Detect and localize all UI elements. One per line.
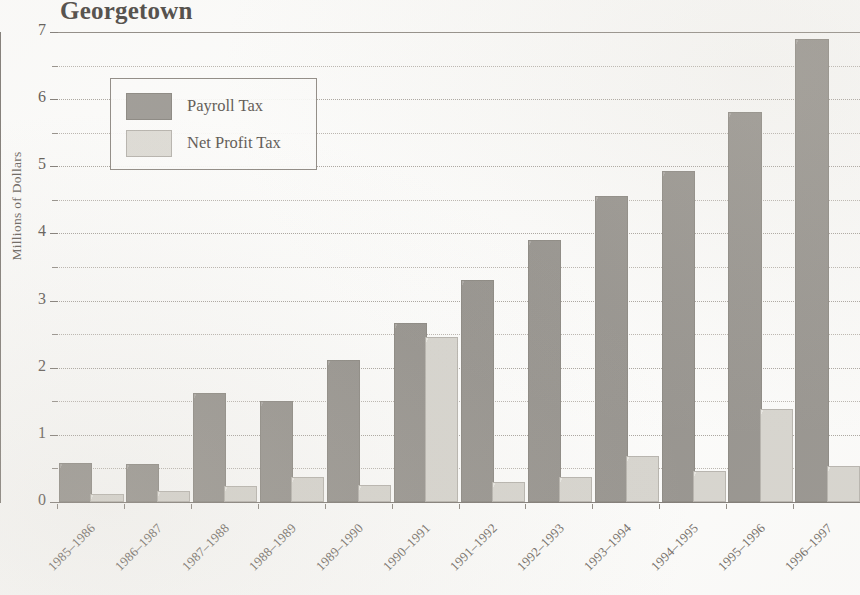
bar-net-profit-tax [559,477,592,503]
bar-payroll-tax [394,323,427,502]
bar-group [57,0,124,502]
x-tick-mark [726,504,727,509]
bar-payroll-tax [595,196,628,502]
bars-layer [57,0,860,502]
bar-net-profit-tax [492,482,525,502]
legend-label-net-profit-tax: Net Profit Tax [187,130,281,155]
bar-group [325,0,392,502]
y-tick-mark [50,166,58,167]
bar-net-profit-tax [90,494,123,502]
y-tick-mark-minor [52,468,58,469]
bar-payroll-tax [260,401,293,502]
x-tick-mark [525,504,526,509]
x-tick-mark [258,504,259,509]
y-tick-label: 6 [20,88,46,106]
x-tick-label: 1993–1994 [581,520,635,574]
y-tick-mark-minor [52,267,58,268]
bar-net-profit-tax [157,491,190,502]
x-tick-label: 1990–1991 [380,520,434,574]
bar-group [258,0,325,502]
x-tick-mark [793,504,794,509]
y-tick-mark [50,301,58,302]
bar-net-profit-tax [760,409,793,502]
bar-net-profit-tax [358,485,391,502]
bar-payroll-tax [193,393,226,502]
bar-group [459,0,526,502]
y-tick-label: 1 [20,424,46,442]
y-tick-mark-minor [52,66,58,67]
bar-group [525,0,592,502]
bar-payroll-tax [795,39,828,502]
y-tick-mark [50,435,58,436]
bar-net-profit-tax [291,477,324,503]
x-tick-label: 1996–1997 [781,520,835,574]
x-tick-mark [459,504,460,509]
y-tick-mark-minor [52,200,58,201]
legend-swatch-net-profit-tax [126,130,172,157]
bar-group [659,0,726,502]
y-tick-label: 3 [20,290,46,308]
x-tick-mark [325,504,326,509]
x-axis-labels: 1985–19861986–19871987–19881988–19891989… [57,504,860,594]
chart-legend: Payroll Tax Net Profit Tax [110,78,317,170]
bar-group [592,0,659,502]
bar-payroll-tax [461,280,494,502]
x-tick-label: 1991–1992 [447,520,501,574]
bar-net-profit-tax [425,337,458,502]
y-axis-line [0,32,1,503]
x-tick-label: 1995–1996 [714,520,768,574]
bar-group [726,0,793,502]
y-tick-mark [50,233,58,234]
bar-payroll-tax [728,112,761,502]
bar-payroll-tax [59,463,92,502]
y-tick-label: 7 [20,21,46,39]
x-tick-label: 1988–1989 [246,520,300,574]
x-tick-label: 1987–1988 [179,520,233,574]
bar-payroll-tax [327,360,360,502]
y-tick-mark [50,502,58,503]
x-tick-mark [57,504,58,509]
x-tick-mark [191,504,192,509]
y-axis-title: Millions of Dollars [9,126,25,286]
bar-group [191,0,258,502]
y-tick-label: 0 [20,491,46,509]
bar-net-profit-tax [827,466,860,502]
bar-group [392,0,459,502]
x-tick-label: 1985–1986 [45,520,99,574]
bar-payroll-tax [662,171,695,502]
legend-swatch-payroll-tax [126,93,172,120]
x-tick-mark [124,504,125,509]
y-tick-label: 2 [20,357,46,375]
x-tick-label: 1994–1995 [647,520,701,574]
y-tick-mark [50,368,58,369]
bar-group [124,0,191,502]
bar-net-profit-tax [693,471,726,502]
bar-payroll-tax [528,240,561,502]
bar-net-profit-tax [626,456,659,502]
chart-figure: Georgetown Millions of Dollars 01234567 … [0,0,860,595]
bar-group [793,0,860,502]
x-tick-label: 1992–1993 [514,520,568,574]
y-tick-mark-minor [52,133,58,134]
x-tick-mark [659,504,660,509]
x-tick-mark [392,504,393,509]
x-tick-label: 1989–1990 [313,520,367,574]
legend-label-payroll-tax: Payroll Tax [187,93,263,118]
x-tick-label: 1986–1987 [112,520,166,574]
y-tick-mark-minor [52,401,58,402]
y-tick-mark-minor [52,334,58,335]
bar-payroll-tax [126,464,159,502]
x-tick-mark [592,504,593,509]
y-tick-mark [50,32,58,33]
bar-net-profit-tax [224,486,257,502]
y-tick-mark [50,99,58,100]
x-axis-line [57,502,860,503]
page-title: Georgetown [60,0,193,25]
